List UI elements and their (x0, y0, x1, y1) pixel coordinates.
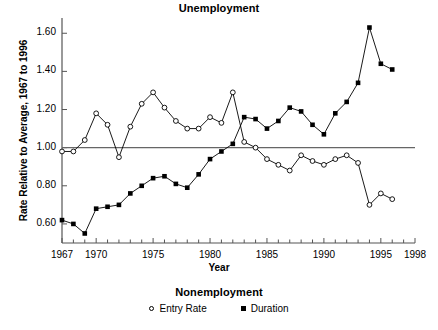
data-point-entry-rate (128, 124, 133, 129)
data-point-entry-rate (242, 140, 247, 145)
x-tick-label: 1970 (71, 249, 121, 260)
data-point-entry-rate (71, 149, 76, 154)
x-tick-label: 1990 (299, 249, 349, 260)
data-point-entry-rate (299, 153, 304, 158)
data-point-entry-rate (173, 119, 178, 124)
data-point-entry-rate (333, 157, 338, 162)
data-point-duration (276, 119, 281, 124)
data-point-duration (128, 191, 133, 196)
data-point-entry-rate (162, 105, 167, 110)
x-tick-label: 1985 (242, 249, 292, 260)
data-point-entry-rate (94, 111, 99, 116)
data-point-entry-rate (378, 191, 383, 196)
series-line-entry-rate (62, 92, 392, 205)
data-point-duration (162, 174, 167, 179)
data-point-entry-rate (344, 153, 349, 158)
data-point-entry-rate (60, 149, 65, 154)
data-point-duration (242, 115, 247, 120)
data-point-duration (174, 182, 179, 187)
data-point-duration (310, 122, 315, 127)
data-point-duration (151, 176, 156, 181)
data-point-duration (185, 185, 190, 190)
data-point-duration (253, 117, 258, 122)
data-point-entry-rate (139, 101, 144, 106)
data-point-duration (208, 157, 213, 162)
plot-area (0, 0, 438, 330)
data-point-entry-rate (230, 90, 235, 95)
y-tick-label: 0.60 (16, 217, 56, 228)
data-point-duration (367, 25, 372, 30)
y-tick-label: 0.80 (16, 179, 56, 190)
x-tick-label: 1998 (390, 249, 438, 260)
data-point-duration (117, 203, 122, 208)
data-point-duration (356, 81, 361, 86)
data-point-duration (287, 105, 292, 110)
series-line-duration (62, 28, 392, 234)
data-point-duration (105, 204, 110, 209)
data-point-entry-rate (117, 155, 122, 160)
data-point-duration (265, 126, 270, 131)
data-point-duration (82, 231, 87, 236)
y-tick-label: 1.40 (16, 64, 56, 75)
x-tick-label: 1980 (185, 249, 235, 260)
data-point-duration (94, 206, 99, 211)
data-point-duration (379, 61, 384, 66)
data-point-entry-rate (310, 159, 315, 164)
y-tick-label: 1.60 (16, 26, 56, 37)
data-point-entry-rate (253, 145, 258, 150)
data-point-entry-rate (219, 120, 224, 125)
data-point-entry-rate (82, 138, 87, 143)
data-point-entry-rate (276, 162, 281, 167)
data-point-duration (390, 67, 395, 72)
y-tick-label: 1.20 (16, 103, 56, 114)
data-point-duration (196, 172, 201, 177)
y-tick-label: 1.00 (16, 141, 56, 152)
data-point-entry-rate (208, 115, 213, 120)
data-point-duration (219, 149, 224, 154)
data-point-entry-rate (196, 126, 201, 131)
x-tick-label: 1975 (128, 249, 178, 260)
data-point-duration (60, 218, 65, 223)
data-point-entry-rate (287, 168, 292, 173)
data-point-duration (139, 183, 144, 188)
data-point-entry-rate (356, 161, 361, 166)
data-point-entry-rate (185, 126, 190, 131)
data-point-entry-rate (322, 162, 327, 167)
data-point-duration (299, 109, 304, 114)
data-point-entry-rate (105, 122, 110, 127)
data-point-duration (322, 132, 327, 137)
unemployment-chart: Unemployment Rate Relative to Average, 1… (0, 0, 438, 330)
data-point-entry-rate (151, 90, 156, 95)
data-point-entry-rate (390, 197, 395, 202)
data-point-duration (71, 222, 76, 227)
data-point-entry-rate (367, 202, 372, 207)
data-point-duration (344, 100, 349, 105)
data-point-duration (231, 142, 236, 147)
data-point-entry-rate (265, 157, 270, 162)
data-point-duration (333, 111, 338, 116)
